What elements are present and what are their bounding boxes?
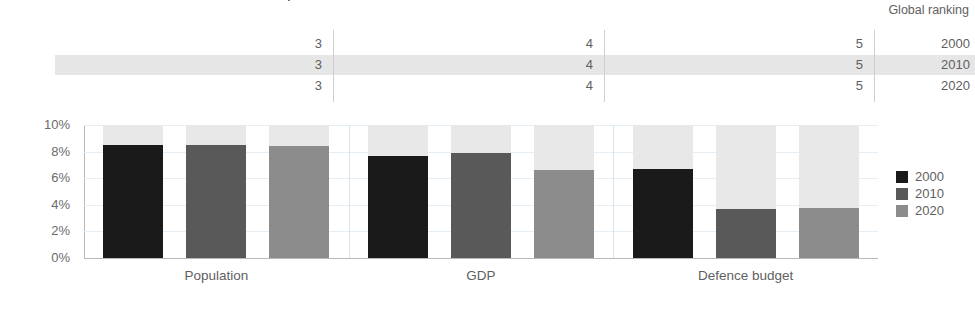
- bar[interactable]: [534, 170, 594, 258]
- legend-swatch-icon: [896, 205, 908, 217]
- plot-area: [84, 125, 878, 258]
- bar[interactable]: [799, 208, 859, 258]
- group-separator: [613, 125, 614, 258]
- bar[interactable]: [451, 153, 511, 258]
- ranking-population-2010: 3: [262, 55, 322, 75]
- y-tick-label: 10%: [8, 119, 70, 131]
- y-tick-label: 4%: [8, 199, 70, 211]
- legend-item[interactable]: 2020: [896, 202, 944, 219]
- ranking-population-2000: 3: [262, 34, 322, 54]
- ranking-population-2020: 3: [262, 76, 322, 96]
- category-label-gdp: GDP: [349, 268, 614, 283]
- ranking-defence-2010: 5: [803, 55, 863, 75]
- ranking-gdp-2020: 4: [533, 76, 593, 96]
- chart-figure: CHINA'S SHARE OF GLOBAL POPULATION, GDP …: [0, 0, 975, 322]
- legend-swatch-icon: [896, 188, 908, 200]
- ranking-gdp-2010: 4: [533, 55, 593, 75]
- bar[interactable]: [186, 145, 246, 258]
- y-tick-label: 0%: [8, 252, 70, 264]
- legend-label: 2020: [915, 204, 944, 217]
- bar[interactable]: [368, 156, 428, 258]
- ranking-defence-2020: 5: [803, 76, 863, 96]
- category-label-population: Population: [84, 268, 349, 283]
- global-ranking-header: Global ranking: [888, 3, 969, 17]
- chart-title: CHINA'S SHARE OF GLOBAL POPULATION, GDP …: [0, 0, 700, 2]
- ranking-year-2000: 2000: [875, 34, 970, 54]
- ranking-gdp-2000: 4: [533, 34, 593, 54]
- bar[interactable]: [103, 145, 163, 258]
- ranking-year-2020: 2020: [875, 76, 970, 96]
- category-label-defence-budget: Defence budget: [613, 268, 878, 283]
- ranking-separator: [874, 30, 875, 102]
- bar-group: [84, 125, 349, 258]
- y-tick-label: 8%: [8, 146, 70, 158]
- ranking-row-2020: 3 4 5 2020: [0, 76, 975, 96]
- legend-item[interactable]: 2010: [896, 185, 944, 202]
- bar[interactable]: [633, 169, 693, 258]
- bar[interactable]: [269, 146, 329, 258]
- bar-group: [349, 125, 614, 258]
- ranking-defence-2000: 5: [803, 34, 863, 54]
- ranking-row-2000: 3 4 5 2000: [0, 34, 975, 54]
- ranking-separator: [604, 30, 605, 102]
- chart-legend: 200020102020: [896, 168, 944, 219]
- legend-swatch-icon: [896, 171, 908, 183]
- y-tick-label: 2%: [8, 225, 70, 237]
- bar-group: [613, 125, 878, 258]
- bar[interactable]: [716, 209, 776, 258]
- ranking-separator: [333, 30, 334, 102]
- group-separator: [349, 125, 350, 258]
- legend-label: 2010: [915, 187, 944, 200]
- ranking-row-2010: 3 4 5 2010: [0, 55, 975, 75]
- x-axis-line: [84, 258, 878, 259]
- y-tick-label: 6%: [8, 172, 70, 184]
- legend-item[interactable]: 2000: [896, 168, 944, 185]
- ranking-year-2010: 2010: [875, 55, 970, 75]
- legend-label: 2000: [915, 170, 944, 183]
